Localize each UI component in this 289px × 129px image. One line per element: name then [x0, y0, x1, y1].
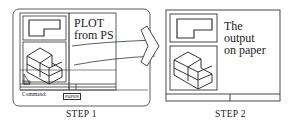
- output-annotation-line3: on paper: [224, 44, 266, 57]
- command-label: Command:: [22, 92, 46, 98]
- step1-label: STEP 1: [66, 110, 97, 120]
- paperspace-triangle-icon: [24, 74, 30, 84]
- step2-label: STEP 2: [215, 110, 246, 120]
- plot-annotation-line2: from PS: [74, 29, 114, 42]
- right-chevron-arrow: [141, 26, 159, 66]
- paper-status-button[interactable]: PAPER: [63, 93, 81, 100]
